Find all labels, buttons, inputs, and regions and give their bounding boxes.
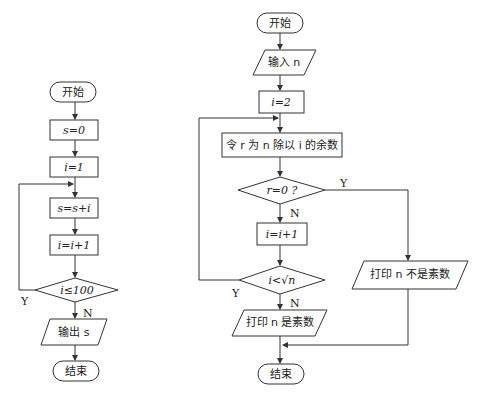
right-cond1-text: r=0 ? <box>267 184 298 197</box>
left-condition-text: i≤100 <box>60 284 94 297</box>
left-end-text: 结束 <box>65 365 87 378</box>
right-increment-text: i=i+1 <box>266 228 298 241</box>
left-no-label: N <box>83 307 93 320</box>
right-cond2-yes: Y <box>231 287 240 300</box>
right-cond2-text: i<√n <box>269 274 296 287</box>
right-cond2-no: N <box>290 297 300 310</box>
left-output-text: 输出 s <box>58 325 89 339</box>
left-step-inc-text: i=i+1 <box>58 239 90 252</box>
right-start-text: 开始 <box>269 16 291 30</box>
flowcharts: 开始 s=0 i=1 s=s+i i=i+1 i≤100 Y N 输出 s <box>0 0 483 394</box>
right-print-prime-text: 打印 n 是素数 <box>246 315 315 329</box>
right-cond1-yes: Y <box>339 177 348 190</box>
right-init-text: i=2 <box>271 96 291 109</box>
right-remainder-text: 令 r 为 n 除以 i 的余数 <box>226 138 339 152</box>
right-end-text: 结束 <box>270 368 292 381</box>
right-input-text: 输入 n <box>268 55 300 69</box>
right-flowchart: 开始 输入 n i=2 令 r 为 n 除以 i 的余数 r=0 ? Y N i… <box>199 13 468 384</box>
left-step-i1-text: i=1 <box>64 161 84 174</box>
right-print-not-prime-text: 打印 n 不是素数 <box>370 267 450 281</box>
left-step-s0-text: s=0 <box>63 124 85 137</box>
left-start-text: 开始 <box>62 85 84 99</box>
right-cond1-no: N <box>290 207 300 220</box>
left-flowchart: 开始 s=0 i=1 s=s+i i=i+1 i≤100 Y N 输出 s <box>19 82 118 381</box>
left-yes-label: Y <box>20 295 29 308</box>
left-step-ssi-text: s=s+i <box>57 202 90 215</box>
